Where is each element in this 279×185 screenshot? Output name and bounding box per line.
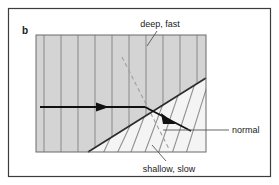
label-shallow-slow: shallow, slow xyxy=(143,164,196,174)
panel-letter-b: b xyxy=(22,25,28,36)
label-normal: normal xyxy=(232,125,260,135)
figure-panel-b: b deep, fast shallow, slow normal xyxy=(0,0,279,185)
label-deep-fast: deep, fast xyxy=(140,19,180,29)
refraction-diagram: b deep, fast shallow, slow normal xyxy=(0,0,279,185)
